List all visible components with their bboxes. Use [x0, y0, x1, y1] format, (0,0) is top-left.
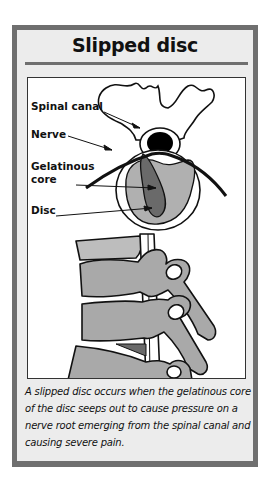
illustration-panel: Spinal canal Nerve Gelatinous core Disc — [27, 77, 246, 379]
figure-caption: A slipped disc occurs when the gelatinou… — [25, 383, 255, 451]
label-spinal-canal: Spinal canal — [31, 100, 103, 112]
title-divider — [25, 62, 248, 65]
spine-illustration — [28, 78, 246, 379]
label-gelatinous-core-line1: Gelatinous — [31, 160, 94, 172]
spine-side-view — [68, 234, 216, 379]
figure-frame: Slipped disc — [12, 25, 258, 467]
label-gelatinous-core-line2: core — [31, 173, 57, 185]
label-nerve: Nerve — [31, 128, 66, 140]
label-disc: Disc — [31, 204, 56, 216]
figure-title: Slipped disc — [17, 34, 253, 56]
